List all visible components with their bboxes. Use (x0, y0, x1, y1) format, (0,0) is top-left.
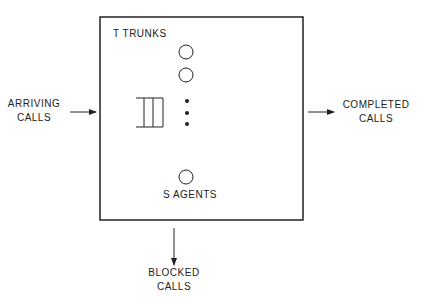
arriving-line1: ARRIVING (0, 97, 68, 111)
ellipsis-dots (185, 99, 189, 126)
call-center-diagram (0, 0, 425, 303)
blocked-calls-label: BLOCKED CALLS (134, 266, 214, 294)
trunks-label: T TRUNKS (113, 27, 167, 41)
agents-label: S AGENTS (150, 188, 230, 202)
queue-icon (136, 98, 163, 127)
blocked-line1: BLOCKED (134, 266, 214, 280)
completed-line1: COMPLETED (336, 98, 416, 112)
blocked-line2: CALLS (134, 280, 214, 294)
arriving-line2: CALLS (0, 111, 68, 125)
completed-line2: CALLS (336, 112, 416, 126)
completed-calls-label: COMPLETED CALLS (336, 98, 416, 126)
arriving-calls-label: ARRIVING CALLS (0, 97, 68, 125)
